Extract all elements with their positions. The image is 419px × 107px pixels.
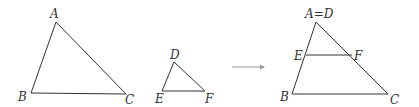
similar-triangles-diagram: A B C D E F A=D E F B C	[0, 0, 419, 107]
combined-triangle-outline	[292, 22, 388, 94]
vertex-label-d: D	[169, 48, 180, 62]
triangle-def: D E F	[154, 48, 214, 106]
vertex-label-a: A	[49, 7, 59, 21]
vertex-label-e: E	[293, 49, 303, 63]
vertex-label-b: B	[279, 90, 289, 104]
arrow-head	[260, 65, 265, 70]
transform-arrow-icon	[232, 65, 265, 70]
vertex-label-a-equals-d: A=D	[304, 7, 334, 21]
vertex-label-e: E	[154, 92, 164, 106]
combined-triangle: A=D E F B C	[279, 7, 399, 107]
vertex-label-f: F	[204, 92, 214, 106]
vertex-label-f: F	[353, 49, 363, 63]
triangle-abc-outline	[31, 22, 126, 94]
triangle-def-outline	[162, 62, 205, 91]
vertex-label-c: C	[390, 93, 399, 107]
vertex-label-c: C	[125, 93, 134, 107]
triangle-abc: A B C	[17, 7, 134, 107]
vertex-label-b: B	[17, 90, 27, 104]
